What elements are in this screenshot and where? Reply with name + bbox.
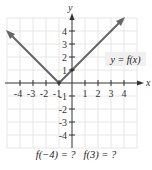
y-tick-label: -4 bbox=[59, 130, 67, 141]
question-f-neg4: f(−4) = ? bbox=[36, 149, 76, 160]
y-axis-arrow-icon bbox=[70, 13, 75, 20]
y-tick-label: 3 bbox=[62, 39, 67, 50]
x-tick-label: -4 bbox=[14, 88, 22, 99]
x-tick-label: 3 bbox=[109, 88, 114, 99]
vertex-point bbox=[57, 81, 61, 85]
function-label: y = f(x) bbox=[109, 54, 141, 66]
x-axis-arrow-icon bbox=[137, 81, 144, 86]
y-tick-label: 2 bbox=[62, 52, 67, 63]
y-tick-label: 4 bbox=[62, 26, 67, 37]
y-tick-label: -1 bbox=[59, 91, 67, 102]
x-tick-label: 1 bbox=[83, 88, 88, 99]
x-tick-label: -3 bbox=[27, 88, 35, 99]
y-tick-label: -2 bbox=[59, 104, 67, 115]
x-axis-label: x bbox=[145, 77, 151, 88]
question-f-3: f(3) = ? bbox=[83, 149, 116, 160]
y-axis-label: y bbox=[67, 2, 73, 13]
x-tick-label: 2 bbox=[96, 88, 101, 99]
x-tick-label: 4 bbox=[122, 88, 127, 99]
axes bbox=[5, 16, 141, 148]
y-intercept-point bbox=[70, 68, 74, 72]
question-caption: f(−4) = ? f(3) = ? bbox=[0, 149, 152, 160]
x-tick-label: -2 bbox=[40, 88, 48, 99]
y-tick-label: -3 bbox=[59, 117, 67, 128]
function-graph: x y -4 -3 -2 -1 1 2 3 4 4 3 2 1 -1 -2 -3… bbox=[0, 0, 152, 150]
